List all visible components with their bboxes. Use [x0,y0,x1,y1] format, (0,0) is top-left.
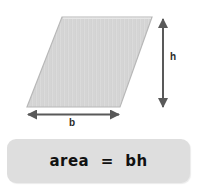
parallelogram-shape [27,17,152,107]
formula-box: area = bh [7,139,190,183]
parallelogram-area-figure: b h area = bh [0,0,197,189]
height-dimension-label: h [170,52,176,62]
area-formula-text: area = bh [49,152,147,170]
base-dimension-label: b [69,118,75,128]
